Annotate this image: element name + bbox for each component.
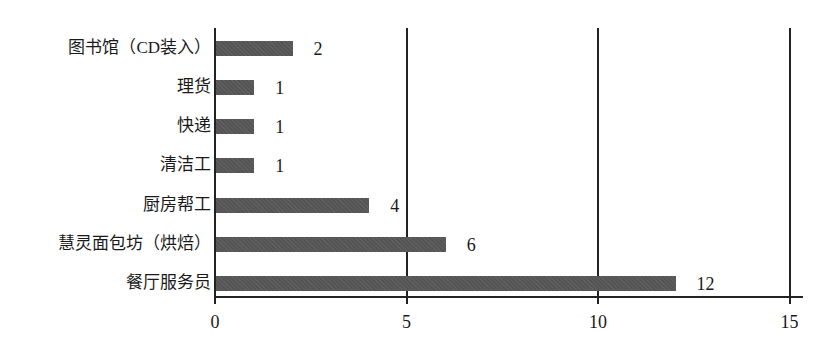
bar xyxy=(216,41,293,56)
gridline xyxy=(597,28,599,296)
bar xyxy=(216,119,254,134)
category-label: 快递 xyxy=(177,116,211,136)
category-label: 清洁工 xyxy=(160,155,211,175)
data-label: 12 xyxy=(697,274,715,294)
gridline xyxy=(789,28,791,296)
category-label: 图书馆（CD装入） xyxy=(68,38,211,58)
x-tick xyxy=(597,296,599,304)
data-label: 4 xyxy=(390,196,399,216)
data-label: 1 xyxy=(275,117,284,137)
gridline xyxy=(406,28,408,296)
x-tick-label: 0 xyxy=(211,312,220,332)
bar xyxy=(216,237,446,252)
data-label: 6 xyxy=(467,235,476,255)
x-tick-label: 10 xyxy=(589,312,607,332)
category-label: 厨房帮工 xyxy=(143,195,211,215)
category-label: 理货 xyxy=(177,77,211,97)
x-tick xyxy=(789,296,791,304)
bar xyxy=(216,198,369,213)
data-label: 1 xyxy=(275,78,284,98)
x-tick xyxy=(214,296,216,304)
horizontal-bar-chart: 051015图书馆（CD装入）2理货1快递1清洁工1厨房帮工4慧灵面包坊（烘焙）… xyxy=(0,0,821,361)
category-label: 慧灵面包坊（烘焙） xyxy=(58,234,211,254)
x-axis-line xyxy=(214,296,803,298)
data-label: 1 xyxy=(275,156,284,176)
x-tick-label: 5 xyxy=(402,312,411,332)
x-tick-label: 15 xyxy=(781,312,799,332)
data-label: 2 xyxy=(314,39,323,59)
bar xyxy=(216,80,254,95)
bar xyxy=(216,276,676,291)
x-tick xyxy=(406,296,408,304)
bar xyxy=(216,158,254,173)
category-label: 餐厅服务员 xyxy=(126,273,211,293)
